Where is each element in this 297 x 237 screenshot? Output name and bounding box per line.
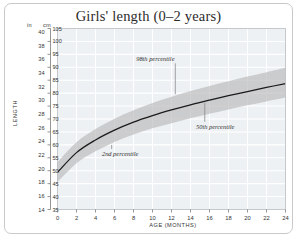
y-axis-cm-tick-label: 40 (53, 194, 59, 200)
x-axis: 024681012141618202224 (56, 210, 290, 222)
y-axis-inches-tick-label: 22 (38, 152, 44, 158)
y-axis-inches-tick-label: 28 (38, 111, 44, 117)
y-axis-inches-tick-label: 40 (38, 29, 44, 35)
y-axis-inches-tick-label: 20 (38, 166, 44, 172)
annotation-label: 98th percentile (136, 55, 174, 62)
y-axis-inches-tick-label: 38 (38, 43, 44, 49)
y-axis-cm-tick-label: 80 (53, 90, 59, 96)
x-axis-tick-label: 16 (206, 215, 212, 221)
y-axis-cm-tick-label: 65 (53, 129, 59, 135)
y-axis-inches-tick-label: 32 (38, 84, 44, 90)
x-axis-tick-label: 24 (282, 215, 289, 221)
x-axis-tick-label: 22 (263, 215, 269, 221)
x-axis-tick-label: 14 (187, 215, 194, 221)
x-axis-tick-label: 8 (132, 215, 135, 221)
x-axis-tick-label: 12 (168, 215, 174, 221)
x-axis-tick-label: 4 (94, 215, 98, 221)
y-axis-inches-tick-label: 24 (38, 138, 44, 144)
y-axis-cm-tick-label: 70 (53, 116, 59, 122)
x-axis-tick-label: 18 (225, 215, 231, 221)
x-axis-tick-label: 0 (56, 215, 59, 221)
annotation-label: 2nd percentile (102, 150, 139, 157)
y-axis-inches: 1416182022242628303234363840 (38, 29, 44, 213)
x-axis-tick-label: 2 (75, 215, 78, 221)
y-axis-inches-tick-label: 16 (38, 193, 44, 199)
y-axis-inches-tick-label: 26 (38, 125, 44, 131)
y-axis-inches-tick-label: 14 (38, 207, 44, 213)
y-axis-cm-tick-label: 50 (53, 168, 59, 174)
y-axis-cm-tick-label: 85 (53, 77, 59, 83)
y-axis-cm-tick-label: 105 (53, 26, 62, 32)
y-axis-inches-tick-label: 30 (38, 97, 44, 103)
y-axis-cm-tick-label: 90 (53, 64, 59, 70)
y-axis-cm-tick-label: 55 (53, 155, 59, 161)
y-axis-cm-tick-label: 75 (53, 103, 59, 109)
x-axis-tick-label: 20 (244, 215, 250, 221)
y-axis-inches-tick-label: 18 (38, 179, 44, 185)
y-axis-cm-tick-label: 45 (53, 181, 59, 187)
x-axis-tick-label: 10 (149, 215, 155, 221)
chart-plot-area: 3540455055606570758085909510010514161820… (0, 0, 297, 237)
y-axis-cm-tick-label: 100 (53, 38, 62, 44)
y-axis-inches-tick-label: 34 (38, 70, 44, 76)
y-axis-cm-tick-label: 60 (53, 142, 59, 148)
growth-chart-figure: Girls' length (0–2 years) in cm LENGTH A… (0, 0, 297, 237)
y-axis-inches-tick-label: 36 (38, 56, 44, 62)
annotation-label: 50th percentile (196, 123, 234, 130)
x-axis-tick-label: 6 (113, 215, 116, 221)
y-axis-cm-tick-label: 95 (53, 51, 59, 57)
